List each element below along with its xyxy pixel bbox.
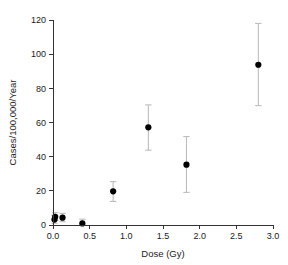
x-tick-label: 3.0 [267, 231, 280, 241]
chart-figure: 020406080100120 0.00.51.01.52.02.53.0 Do… [0, 0, 288, 265]
y-tick-label: 60 [36, 118, 46, 128]
y-tick-label: 80 [36, 84, 46, 94]
x-tick-label: 1.0 [120, 231, 133, 241]
x-tick-label: 2.5 [230, 231, 243, 241]
x-tick-label: 0.0 [47, 231, 60, 241]
scatter-plot: 020406080100120 0.00.51.01.52.02.53.0 Do… [0, 0, 288, 265]
x-tick-label: 0.5 [83, 231, 96, 241]
axes-layer [53, 20, 273, 225]
y-tick-label: 120 [31, 15, 46, 25]
data-marker-layer [51, 62, 261, 227]
data-point [255, 62, 261, 68]
y-axis-ticks: 020406080100120 [31, 15, 53, 230]
y-tick-label: 0 [41, 220, 46, 230]
y-tick-label: 100 [31, 49, 46, 59]
y-tick-label: 20 [36, 186, 46, 196]
x-tick-label: 1.5 [157, 231, 170, 241]
x-axis-ticks: 0.00.51.01.52.02.53.0 [47, 225, 280, 241]
x-axis-title: Dose (Gy) [141, 248, 184, 259]
x-tick-label: 2.0 [193, 231, 206, 241]
y-tick-label: 40 [36, 152, 46, 162]
y-axis-title: Cases/100,000/Year [7, 80, 18, 166]
data-point [79, 220, 85, 226]
data-point [145, 124, 151, 130]
data-point [59, 215, 65, 221]
data-point [183, 162, 189, 168]
data-point [110, 188, 116, 194]
errorbar-layer [51, 23, 261, 225]
